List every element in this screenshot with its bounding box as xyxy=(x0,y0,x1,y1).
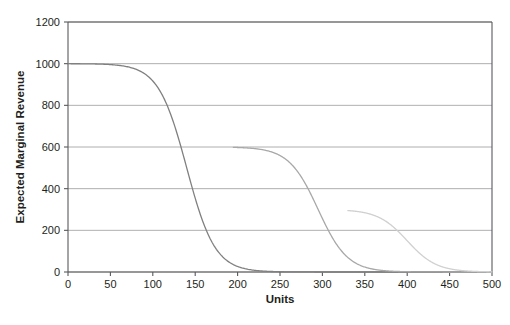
x-tick-label-150: 150 xyxy=(186,278,204,290)
x-tick-label-100: 100 xyxy=(144,278,162,290)
x-tick-label-450: 450 xyxy=(440,278,458,290)
x-tick-label-300: 300 xyxy=(313,278,331,290)
y-tick-label-1200: 1200 xyxy=(36,16,60,28)
x-tick-label-200: 200 xyxy=(228,278,246,290)
y-tick-label-0: 0 xyxy=(54,266,60,278)
x-tick-label-250: 250 xyxy=(271,278,289,290)
x-tick-label-400: 400 xyxy=(398,278,416,290)
y-tick-label-800: 800 xyxy=(42,99,60,111)
y-tick-label-200: 200 xyxy=(42,224,60,236)
x-axis-title: Units xyxy=(266,293,295,305)
y-axis-title: Expected Marginal Revenue xyxy=(14,71,26,224)
x-tick-label-500: 500 xyxy=(483,278,501,290)
expected-marginal-revenue-chart: 050100150200250300350400450500 020040060… xyxy=(0,0,510,325)
y-tick-label-1000: 1000 xyxy=(36,58,60,70)
chart-figure: 050100150200250300350400450500 020040060… xyxy=(0,0,510,325)
x-tick-label-50: 50 xyxy=(104,278,116,290)
x-tick-label-0: 0 xyxy=(65,278,71,290)
x-tick-label-350: 350 xyxy=(356,278,374,290)
y-tick-label-600: 600 xyxy=(42,141,60,153)
chart-background xyxy=(0,0,510,325)
y-tick-label-400: 400 xyxy=(42,183,60,195)
